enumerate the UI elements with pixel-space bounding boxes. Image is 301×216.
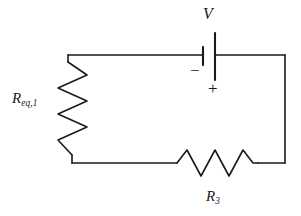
resistor-req1-symbol: R (12, 90, 21, 106)
battery-negative-sign: − (190, 62, 200, 79)
battery-positive-sign: + (208, 80, 218, 97)
resistor-r3-zigzag (177, 150, 258, 176)
resistor-r3-label: R3 (206, 189, 220, 204)
circuit-diagram: V Req,1 R3 − + (0, 0, 301, 216)
resistor-req1-zigzag (58, 62, 87, 155)
resistor-r3-symbol: R (206, 188, 215, 204)
resistor-r3-subscript: 3 (215, 196, 220, 206)
resistor-req1-subscript: eq,1 (21, 98, 38, 108)
circuit-schematic-svg (0, 0, 301, 216)
voltage-source-label: V (203, 6, 213, 22)
resistor-req1-label: Req,1 (12, 91, 38, 106)
